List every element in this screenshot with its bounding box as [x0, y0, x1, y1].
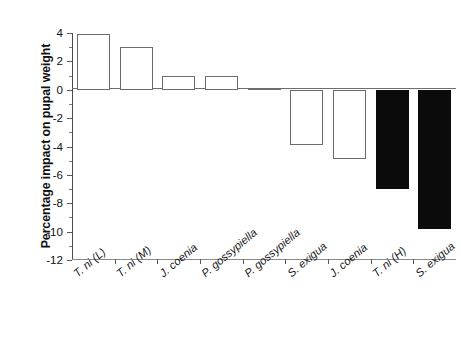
y-tick-label: 0	[57, 83, 63, 96]
y-tick-label: -10	[46, 225, 63, 238]
y-tick-label: -8	[53, 197, 63, 210]
x-tick	[285, 259, 286, 264]
y-axis-line	[72, 33, 73, 260]
x-tick	[328, 259, 329, 264]
y-tick: -8	[67, 203, 72, 204]
y-tick: -12	[67, 260, 72, 261]
y-minor-tick	[69, 76, 72, 77]
bar	[333, 90, 366, 160]
y-tick-label: 2	[57, 55, 63, 68]
y-tick: 4	[67, 33, 72, 34]
y-tick: -4	[67, 147, 72, 148]
y-minor-tick	[69, 104, 72, 105]
y-minor-tick	[69, 47, 72, 48]
bar	[77, 34, 110, 89]
x-tick	[413, 259, 414, 264]
bar	[290, 90, 323, 145]
bar	[248, 89, 281, 90]
y-tick-label: -2	[53, 111, 63, 124]
y-tick: 2	[67, 61, 72, 62]
y-minor-tick	[69, 246, 72, 247]
y-minor-tick	[69, 217, 72, 218]
bar	[120, 47, 153, 90]
y-tick-label: 4	[57, 26, 63, 39]
y-tick-label: -12	[46, 253, 63, 266]
x-tick	[157, 259, 158, 264]
y-tick: -10	[67, 232, 72, 233]
x-tick	[200, 259, 201, 264]
x-tick	[243, 259, 244, 264]
y-tick: -2	[67, 118, 72, 119]
y-tick: 0	[67, 90, 72, 91]
y-tick-label: -4	[53, 140, 63, 153]
y-minor-tick	[69, 132, 72, 133]
y-axis-title: Percentage impact on pupal weight	[39, 12, 53, 280]
x-tick	[371, 259, 372, 264]
y-minor-tick	[69, 189, 72, 190]
bar-chart: Percentage impact on pupal weight 420-2-…	[0, 0, 461, 352]
y-minor-tick	[69, 161, 72, 162]
bar	[162, 76, 195, 90]
plot-area: 420-2-4-6-8-10-12	[72, 33, 456, 260]
x-tick	[115, 259, 116, 264]
y-tick-label: -6	[53, 168, 63, 181]
y-tick: -6	[67, 175, 72, 176]
bar	[418, 90, 451, 229]
bar	[205, 76, 238, 90]
bar	[376, 90, 409, 189]
